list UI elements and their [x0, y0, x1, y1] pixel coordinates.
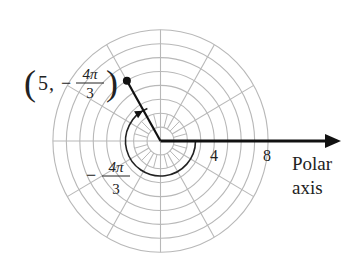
angle-label: − 4π 3 [86, 159, 130, 197]
angle-sign: − [86, 165, 96, 185]
grid-inner-spoke [173, 134, 186, 138]
grid-inner-spoke [164, 114, 167, 127]
grid-inner-spoke [135, 134, 148, 138]
point-coordinate-label: ( 5 , − 4π 3 ) [24, 63, 118, 103]
polar-axis-label-line1: Polar [292, 153, 333, 174]
grid-inner-spoke [154, 114, 157, 127]
grid-inner-spoke [170, 121, 180, 131]
grid-inner-spoke [164, 154, 167, 167]
point-marker [123, 77, 131, 85]
tick-label-4: 4 [210, 147, 218, 164]
grid-inner-spoke [154, 154, 157, 167]
grid-inner-spoke [141, 151, 151, 161]
polar-axis-arrowhead-icon [325, 134, 341, 148]
point-theta-denominator: 3 [86, 85, 94, 101]
tick-label-8: 8 [263, 147, 271, 164]
polar-diagram: 4 8 Polar axis ( 5 , − 4π 3 ) − 4π 3 [0, 0, 358, 270]
angle-denominator: 3 [112, 181, 120, 197]
close-paren: ) [106, 63, 118, 103]
point-theta-numerator: 4π [82, 66, 98, 82]
grid-inner-spoke [170, 151, 180, 161]
polar-axis-label-line2: axis [292, 177, 323, 198]
point-r-value: 5 [38, 72, 48, 94]
open-paren: ( [24, 63, 36, 103]
comma: , [49, 72, 54, 94]
grid-inner-spoke [173, 145, 186, 149]
angle-numerator: 4π [108, 159, 124, 175]
point-theta-sign: − [61, 73, 71, 93]
grid-inner-spoke [135, 145, 148, 149]
